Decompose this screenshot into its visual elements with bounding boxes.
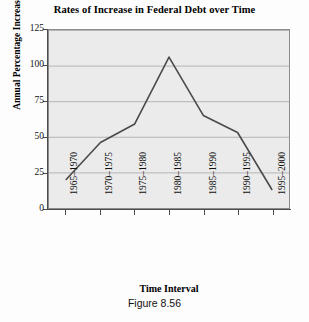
x-tick-mark (204, 210, 205, 215)
x-tick-label: 1980–1985 (173, 152, 183, 218)
y-tick-label: 75 (4, 95, 44, 105)
x-tick-mark (134, 210, 135, 215)
data-series-line (49, 30, 289, 208)
x-tick-mark (169, 210, 170, 215)
y-axis-line (47, 29, 48, 210)
x-tick-mark (100, 210, 101, 215)
figure-container: Rates of Increase in Federal Debt over T… (0, 0, 309, 322)
x-tick-label: 1965–1970 (69, 152, 79, 218)
x-axis-title: Time Interval (48, 283, 290, 294)
chart-title: Rates of Increase in Federal Debt over T… (0, 4, 309, 15)
y-tick-label: 25 (4, 167, 44, 177)
figure-caption: Figure 8.56 (0, 297, 309, 309)
y-tick-label: 0 (4, 203, 44, 213)
x-tick-mark (273, 210, 274, 215)
x-tick-mark (65, 210, 66, 215)
y-tick-label: 50 (4, 131, 44, 141)
x-tick-label: 1995–2000 (277, 152, 287, 218)
y-tick-label: 125 (4, 23, 44, 33)
plot-area (48, 29, 290, 209)
x-tick-label: 1985–1990 (208, 152, 218, 218)
x-tick-label: 1970–1975 (104, 152, 114, 218)
x-tick-label: 1975–1980 (138, 152, 148, 218)
y-tick-label: 100 (4, 59, 44, 69)
x-tick-mark (238, 210, 239, 215)
x-tick-label: 1990–1995 (242, 152, 252, 218)
